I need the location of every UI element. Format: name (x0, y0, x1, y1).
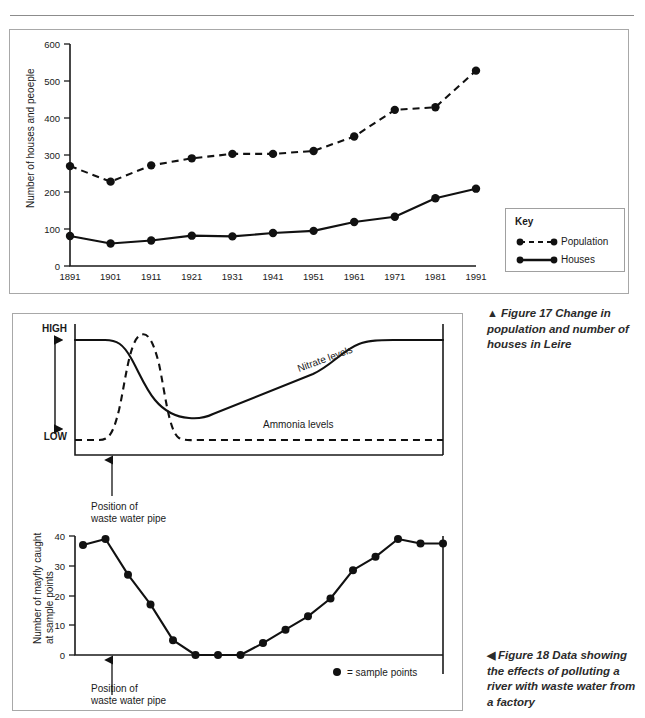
x-tick-1901: 1901 (100, 271, 121, 282)
data-point-marker (372, 553, 380, 561)
data-point-marker (282, 626, 290, 634)
data-point-marker (147, 236, 155, 244)
figure18-caption: ◀Figure 18 Data showing the effects of p… (487, 648, 639, 710)
data-point-marker (237, 651, 245, 659)
figure18-charts: HIGH LOW Nitrate levels Ammonia levels P… (13, 314, 462, 710)
mayfly-y-tick-20: 20 (54, 591, 65, 602)
mayfly-y-axis-title-line1: Number of mayfly caught (32, 533, 43, 644)
nitrate-label: Nitrate levels (296, 344, 354, 374)
figure-page: Number of houses and peoeple 600 500 400… (0, 0, 645, 718)
nitrate-ammonia-chart: HIGH LOW Nitrate levels Ammonia levels P… (42, 323, 443, 524)
data-point-marker (124, 571, 132, 579)
figure17-panel: Number of houses and peoeple 600 500 400… (9, 29, 629, 294)
lower-pipe-annotation-line2: waste water pipe (90, 695, 166, 706)
key-title: Key (515, 216, 533, 227)
y-tick-100: 100 (44, 224, 60, 235)
caption-left-triangle-icon: ◀ (487, 649, 495, 661)
data-point-marker (391, 106, 399, 114)
mayfly-y-axis-title-line2: at sample points (44, 571, 55, 644)
data-point-marker (309, 227, 317, 235)
mayfly-y-tick-30: 30 (54, 561, 65, 572)
key-item-houses: Houses (515, 253, 559, 267)
data-point-marker (147, 600, 155, 608)
figure18-panel: HIGH LOW Nitrate levels Ammonia levels P… (12, 313, 463, 711)
y-tick-200: 200 (44, 187, 60, 198)
upper-chart-axes (75, 324, 443, 455)
mayfly-series (79, 535, 447, 659)
data-point-marker (439, 539, 447, 547)
lower-pipe-annotation-line1: Position of (91, 683, 138, 694)
x-tick-1971: 1971 (384, 271, 405, 282)
data-point-marker (66, 162, 74, 170)
data-point-marker (269, 229, 277, 237)
data-point-marker (192, 651, 200, 659)
y-tick-500: 500 (44, 76, 60, 87)
figure18-caption-text: Figure 18 Data showing the effects of po… (487, 649, 635, 708)
data-point-marker (350, 218, 358, 226)
x-tick-1981: 1981 (425, 271, 446, 282)
sample-point-icon (333, 668, 341, 676)
data-point-marker (169, 636, 177, 644)
data-point-marker (350, 132, 358, 140)
data-point-marker (214, 651, 222, 659)
x-tick-1941: 1941 (262, 271, 283, 282)
data-point-marker (269, 150, 277, 158)
key-label-houses: Houses (561, 254, 595, 265)
data-point-marker (391, 213, 399, 221)
data-point-marker (431, 103, 439, 111)
key-item-population: Population (515, 235, 559, 249)
key-label-population: Population (561, 236, 608, 247)
page-top-rule (10, 15, 634, 16)
series-line (70, 71, 476, 182)
figure17-caption-text: Figure 17 Change in population and numbe… (487, 307, 629, 350)
data-point-marker (188, 231, 196, 239)
mayfly-chart-axes (75, 536, 443, 655)
sample-points-legend-label: = sample points (347, 667, 417, 678)
mayfly-y-tick-10: 10 (54, 620, 65, 631)
data-point-marker (349, 566, 357, 574)
series-line (83, 539, 443, 655)
data-point-marker (106, 177, 114, 185)
data-point-marker (228, 150, 236, 158)
data-point-marker (228, 232, 236, 240)
data-point-marker (472, 184, 480, 192)
chart-key-box: Key Population Houses (505, 208, 625, 272)
figure17-caption: ▲Figure 17 Change in population and numb… (487, 306, 639, 353)
data-point-marker (147, 161, 155, 169)
data-point-marker (394, 535, 402, 543)
series-population (66, 66, 480, 185)
data-point-marker (327, 594, 335, 602)
data-point-marker (472, 66, 480, 74)
y-tick-0: 0 (55, 261, 60, 272)
key-swatch-dashed (515, 235, 559, 249)
y-tick-300: 300 (44, 150, 60, 161)
series-houses (66, 184, 480, 247)
y-tick-600: 600 (44, 39, 60, 50)
x-tick-1911: 1911 (141, 271, 161, 282)
x-tick-1921: 1921 (181, 271, 202, 282)
upper-pipe-annotation-line1: Position of (91, 501, 138, 512)
mayfly-y-ticks: 40 30 20 10 0 (54, 531, 75, 661)
data-point-marker (102, 535, 110, 543)
key-swatch-solid (515, 253, 559, 267)
y-tick-400: 400 (44, 113, 60, 124)
y-label-low: LOW (44, 431, 68, 442)
x-tick-1951: 1951 (303, 271, 324, 282)
upper-pipe-annotation-line2: waste water pipe (90, 513, 166, 524)
data-point-marker (66, 232, 74, 240)
data-point-marker (431, 194, 439, 202)
ammonia-label: Ammonia levels (263, 419, 334, 430)
data-point-marker (106, 239, 114, 247)
y-label-high: HIGH (42, 323, 67, 334)
data-point-marker (259, 639, 267, 647)
x-tick-1891: 1891 (59, 271, 80, 282)
x-tick-1961: 1961 (344, 271, 365, 282)
mayfly-y-tick-0: 0 (60, 650, 65, 661)
mayfly-y-tick-40: 40 (54, 531, 65, 542)
data-point-marker (304, 612, 312, 620)
data-point-marker (417, 539, 425, 547)
y-axis-title: Number of houses and peoeple (25, 68, 36, 208)
x-axis-labels: 1891 1901 1911 1921 1931 1941 1951 1961 … (59, 271, 486, 282)
data-point-marker (309, 147, 317, 155)
mayfly-chart: Number of mayfly caught at sample points… (32, 531, 447, 707)
